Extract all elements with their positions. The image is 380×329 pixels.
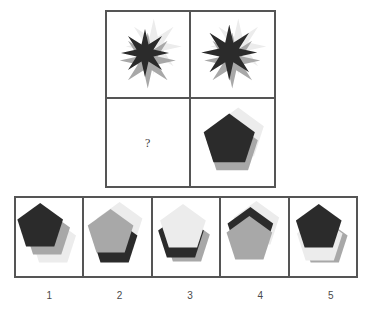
shape-stack: [154, 201, 218, 273]
shape-stack: [17, 201, 81, 273]
matrix-cell-2-1-missing: ?: [107, 99, 191, 186]
answer-label-3: 3: [155, 290, 225, 310]
shape-stack: [113, 18, 183, 92]
answer-option-2[interactable]: [82, 196, 152, 278]
answer-option-1[interactable]: [14, 196, 84, 278]
answer-labels-row: 1 2 3 4 5: [14, 290, 366, 310]
answer-label-1: 1: [14, 290, 84, 310]
matrix-cell-1-2: [191, 12, 275, 99]
answer-option-3[interactable]: [151, 196, 221, 278]
matrix-cell-1-1: [107, 12, 191, 99]
shape-stack: [291, 201, 355, 273]
shape-stack: [222, 201, 286, 273]
answer-options-row: [14, 196, 366, 278]
answer-option-5[interactable]: [288, 196, 358, 278]
star8-dark-layer: [201, 25, 257, 81]
answer-option-4[interactable]: [219, 196, 289, 278]
shape-stack: [197, 18, 267, 92]
question-mark: ?: [145, 135, 150, 150]
shape-stack: [86, 201, 150, 273]
answer-label-5: 5: [296, 290, 366, 310]
matrix-grid: ?: [105, 10, 276, 188]
shape-stack: [197, 106, 267, 180]
answer-label-2: 2: [84, 290, 154, 310]
answer-label-4: 4: [225, 290, 295, 310]
matrix-cell-2-2: [191, 99, 275, 186]
